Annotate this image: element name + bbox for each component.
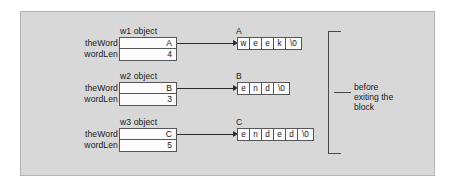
diagram-panel: theWord wordLen w1 object A 4 A w e e k … [20,11,435,176]
char-cell: e [250,38,262,49]
object-box-w2: B 3 [119,82,177,106]
annotation-line-2: exiting the [354,92,393,102]
row2-field-label-theword: theWord [48,83,118,93]
char-array-a: w e e k \0 [237,37,302,50]
grouping-bracket-tick [334,92,351,93]
char-cell: e [238,129,250,140]
row1-field-label-theword: theWord [48,38,118,48]
char-cell: n [250,83,262,94]
object-title-w2: w2 object [120,71,157,81]
char-cell-null: \0 [286,38,301,49]
char-cell: w [238,38,250,49]
char-array-b: e n d \0 [237,82,290,95]
char-cell: n [250,129,262,140]
array-label-c: C [236,117,242,127]
row3-field-label-theword: theWord [48,129,118,139]
memory-layout-diagram: theWord wordLen w1 object A 4 A w e e k … [0,0,452,187]
row2-field-label-wordlen: wordLen [48,94,118,104]
object-w3-theword-value: C [120,129,176,140]
pointer-arrow-line-w2 [177,88,235,89]
annotation-line-1: before [354,82,378,92]
object-w1-wordlen-value: 4 [120,49,176,60]
array-label-b: B [236,71,242,81]
row3-field-label-wordlen: wordLen [48,140,118,150]
object-box-w1: A 4 [119,37,177,61]
object-w1-theword-value: A [120,38,176,49]
object-title-w1: w1 object [120,26,157,36]
char-cell: e [274,129,286,140]
char-cell-null: \0 [298,129,313,140]
object-w2-theword-value: B [120,83,176,94]
object-box-w3: C 5 [119,128,177,152]
pointer-arrow-line-w3 [177,134,235,135]
object-w2-wordlen-value: 3 [120,94,176,105]
char-array-c: e n d e d \0 [237,128,314,141]
char-cell: k [274,38,286,49]
char-cell: d [262,83,274,94]
annotation-line-3: block [354,102,374,112]
char-cell: e [238,83,250,94]
object-title-w3: w3 object [120,117,157,127]
char-cell: d [286,129,298,140]
char-cell: e [262,38,274,49]
array-label-a: A [236,26,242,36]
object-w3-wordlen-value: 5 [120,140,176,151]
char-cell-null: \0 [274,83,289,94]
pointer-arrow-line-w1 [177,43,235,44]
row1-field-label-wordlen: wordLen [48,49,118,59]
char-cell: d [262,129,274,140]
